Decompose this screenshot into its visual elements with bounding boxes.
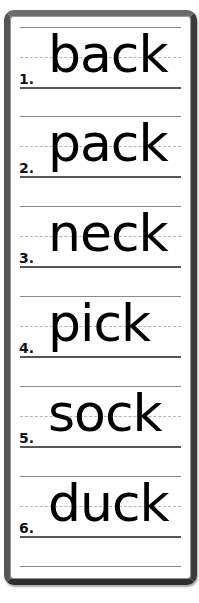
spelling-word: neck — [48, 198, 168, 268]
bottom-guide-line — [20, 566, 181, 567]
row-number: 3. — [19, 250, 34, 266]
row-number: 6. — [19, 520, 34, 536]
word-row: 4. pick — [10, 296, 191, 386]
row-number: 4. — [19, 340, 34, 356]
worksheet-frame: 1. back 2. pack 3. neck 4. pick 5. sock … — [4, 10, 197, 585]
word-row: 2. pack — [10, 116, 191, 206]
row-number: 1. — [19, 71, 34, 87]
row-number: 5. — [19, 430, 34, 446]
spelling-word: back — [48, 19, 168, 89]
spelling-word: sock — [48, 378, 162, 448]
word-row: 3. neck — [10, 206, 191, 296]
word-row: 1. back — [10, 27, 191, 117]
spelling-word: pack — [48, 108, 168, 178]
word-row: 6. duck — [10, 476, 191, 566]
word-row: 5. sock — [10, 386, 191, 476]
spelling-word: pick — [48, 288, 150, 358]
spelling-word: duck — [48, 468, 169, 538]
row-number: 2. — [19, 160, 34, 176]
